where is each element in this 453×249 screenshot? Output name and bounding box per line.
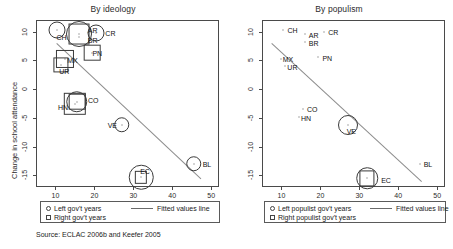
data-point-CO (302, 109, 303, 110)
data-point-UR (61, 64, 62, 65)
x-tick-label: 30 (129, 192, 137, 199)
legend-circle-icon (270, 206, 275, 211)
data-point-EC (141, 177, 142, 178)
legend-item-fitted-line: Fitted values line (131, 205, 210, 212)
legend-box: Left populist gov't yearsRight populist … (264, 201, 446, 223)
point-label-EC: EC (381, 177, 391, 184)
y-tick-label-wrap: 5 (16, 55, 32, 65)
data-point-PN (318, 56, 319, 57)
y-tickmark (259, 147, 262, 148)
y-tick-label: -10 (21, 139, 28, 155)
x-tick-label: 30 (355, 192, 363, 199)
y-tick-label: 10 (21, 24, 28, 40)
x-tick-label: 40 (394, 192, 402, 199)
data-point-AR (304, 33, 305, 34)
point-label-VE: VE (108, 121, 117, 128)
y-tickmark (33, 147, 36, 148)
legend-label: Left populist gov't years (278, 205, 351, 212)
point-label-UR: UR (287, 64, 297, 71)
chart-panel-ideology: By ideology10203040501050-5-10-15School … (0, 0, 226, 249)
panel-title: By ideology (0, 4, 226, 14)
legend-line-icon (370, 208, 392, 209)
point-label-AR: AR (309, 31, 319, 38)
y-tick-label-wrap: 10 (16, 27, 32, 37)
legend-item-right-years: Right gov't years (46, 214, 106, 221)
x-tickmark (320, 187, 321, 190)
data-point-HN (298, 116, 299, 117)
point-label-CO: CO (307, 106, 318, 113)
y-tickmark (259, 118, 262, 119)
point-label-BL: BL (424, 160, 433, 167)
point-label-BR: BR (309, 39, 319, 46)
data-point-UR (285, 66, 286, 67)
legend-square-icon (270, 215, 275, 220)
point-label-HN: HN (58, 104, 68, 111)
point-label-HN: HN (301, 114, 311, 121)
x-tick-label: 20 (316, 192, 324, 199)
data-point-CH (283, 29, 284, 30)
data-point-CR (324, 32, 325, 33)
x-tickmark (398, 187, 399, 190)
point-label-CR: CR (105, 30, 115, 37)
y-tickmark (33, 89, 36, 90)
data-point-CH (57, 29, 58, 30)
x-tick-label: 10 (52, 192, 60, 199)
y-tick-label-wrap: 0 (242, 84, 258, 94)
data-point-BR (78, 37, 79, 38)
panel-title: By populism (226, 4, 452, 14)
x-tick-label: 40 (168, 192, 176, 199)
x-tick-label: 20 (90, 192, 98, 199)
legend-item-fitted-line: Fitted values line (370, 205, 449, 212)
legend-box: Left gov't yearsRight gov't yearsFitted … (40, 201, 220, 223)
y-tickmark (259, 32, 262, 33)
y-tickmark (259, 175, 262, 176)
point-label-PN: PN (322, 54, 332, 61)
x-tickmark (94, 187, 95, 190)
y-tick-label: -5 (21, 110, 28, 126)
point-label-MX: MX (283, 56, 294, 63)
legend-line-icon (131, 208, 153, 209)
y-tickmark (33, 118, 36, 119)
figure-root: By ideology10203040501050-5-10-15School … (0, 0, 453, 249)
point-label-EC: EC (140, 168, 150, 175)
y-tick-label: -10 (247, 139, 254, 155)
legend-label: Fitted values line (396, 205, 449, 212)
data-point-VE (347, 124, 348, 125)
legend-label: Right gov't years (54, 214, 106, 221)
legend-item-left-years: Left gov't years (46, 205, 101, 212)
point-label-CH: CH (287, 26, 297, 33)
data-point-EC (367, 178, 368, 179)
data-point-BL (193, 163, 194, 164)
x-tick-label: 50 (433, 192, 441, 199)
y-tick-label-wrap: 10 (242, 27, 258, 37)
y-tick-label: -15 (21, 167, 28, 183)
y-tickmark (259, 89, 262, 90)
y-tickmark (33, 32, 36, 33)
data-point-AR (78, 33, 79, 34)
point-label-BL: BL (203, 160, 212, 167)
point-label-CR: CR (328, 29, 338, 36)
x-tick-label: 10 (278, 192, 286, 199)
y-tick-label-wrap: 5 (242, 55, 258, 65)
data-point-VE (121, 124, 122, 125)
y-tickmark (259, 60, 262, 61)
y-tick-label-wrap: -5 (242, 113, 258, 123)
y-tick-label: -15 (247, 167, 254, 183)
y-tick-label: 0 (21, 81, 28, 97)
y-axis-title: Change in school attendance (10, 82, 19, 179)
plot-frame (262, 20, 445, 187)
legend-item-left-years: Left populist gov't years (270, 205, 351, 212)
point-label-PN: PN (92, 49, 102, 56)
x-tickmark (172, 187, 173, 190)
y-tick-label: 5 (21, 52, 28, 68)
legend-item-right-years: Right populist gov't years (270, 214, 356, 221)
data-point-BL (419, 163, 420, 164)
y-tick-label: 10 (247, 24, 254, 40)
data-point-BR (304, 41, 305, 42)
legend-circle-icon (46, 206, 51, 211)
legend-label: Fitted values line (157, 205, 210, 212)
point-label-VE: VE (347, 127, 356, 134)
legend-square-icon (46, 215, 51, 220)
chart-panel-populism: By populism10203040501050-5-10-15School … (226, 0, 452, 249)
y-tick-label-wrap: -10 (242, 142, 258, 152)
